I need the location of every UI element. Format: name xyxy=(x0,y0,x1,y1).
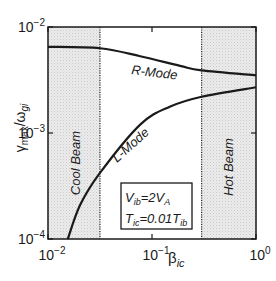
r-mode-label: R-Mode xyxy=(131,62,179,83)
hot-beam-label: Hot Beam xyxy=(221,138,236,196)
hot-beam-region xyxy=(202,27,256,239)
chart: 10−210−1100 10−410−310−2 Cool Beam Hot B… xyxy=(0,0,276,281)
x-axis-label: βic xyxy=(168,249,185,269)
y-axis-label: γmax/ωgi xyxy=(12,103,30,152)
tick-label: 10−4 xyxy=(18,229,45,247)
tick-label: 10−2 xyxy=(39,245,66,263)
cool-beam-label: Cool Beam xyxy=(68,131,83,195)
tick-label: 100 xyxy=(249,245,271,263)
tick-label: 10−2 xyxy=(18,17,45,35)
x-tick-labels: 10−210−1100 xyxy=(39,245,272,263)
l-mode-label: L-Mode xyxy=(109,125,152,166)
tick-label: 10−1 xyxy=(143,245,170,263)
parameter-vib: Vib=2VA xyxy=(125,190,170,207)
